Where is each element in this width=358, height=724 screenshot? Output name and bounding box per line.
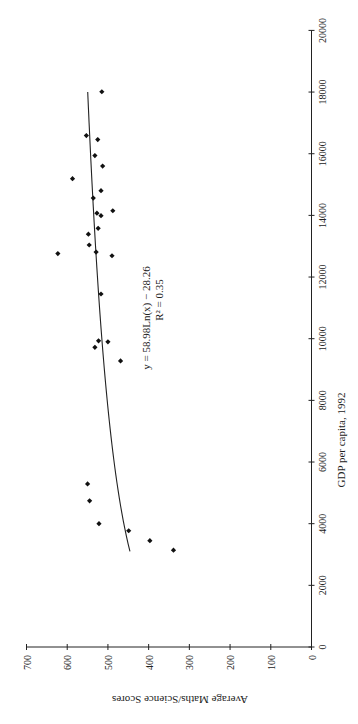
data-point	[87, 242, 92, 247]
data-point	[95, 137, 100, 142]
data-point	[85, 481, 90, 486]
data-point	[98, 213, 103, 218]
data-point	[91, 196, 96, 201]
trendline	[88, 92, 130, 551]
y-tick-label: 100	[266, 655, 277, 670]
y-tick-label: 0	[307, 655, 318, 660]
data-point	[94, 211, 99, 216]
data-point	[94, 249, 99, 254]
x-axis-label: GDP per capita, 1992	[335, 393, 347, 488]
data-point	[70, 176, 75, 181]
score-axis: 0100200300400500600700	[22, 644, 318, 670]
data-point	[92, 153, 97, 158]
data-point	[147, 538, 152, 543]
x-tick-label: 0	[317, 645, 328, 650]
x-tick-label: 16000	[317, 141, 328, 166]
gdp-axis: 0200040006000800010000120001400016000180…	[309, 18, 328, 650]
y-tick-label: 400	[144, 655, 155, 670]
x-tick-label: 8000	[317, 390, 328, 410]
data-point	[126, 528, 131, 533]
x-tick-label: 2000	[317, 575, 328, 595]
data-point	[109, 253, 114, 258]
x-tick-label: 10000	[317, 326, 328, 351]
data-point	[96, 521, 101, 526]
data-point	[86, 232, 91, 237]
x-tick-label: 20000	[317, 18, 328, 43]
x-tick-label: 6000	[317, 452, 328, 472]
data-point	[84, 133, 89, 138]
data-point	[92, 345, 97, 350]
data-point	[105, 339, 110, 344]
data-point	[110, 208, 115, 213]
data-point	[87, 498, 92, 503]
data-point	[96, 226, 101, 231]
data-point	[100, 163, 105, 168]
y-axis-label: Average Maths/Science Scores	[112, 694, 248, 706]
scatter-chart: 0100200300400500600700 02000400060008000…	[0, 0, 358, 724]
data-point	[171, 548, 176, 553]
y-tick-label: 200	[225, 655, 236, 670]
y-tick-label: 500	[103, 655, 114, 670]
data-point	[118, 358, 123, 363]
data-point	[96, 338, 101, 343]
x-tick-label: 4000	[317, 514, 328, 534]
y-tick-label: 300	[184, 655, 195, 670]
y-tick-label: 700	[22, 655, 33, 670]
data-point	[55, 251, 60, 256]
trendline-r2: R² = 0.35	[153, 279, 165, 321]
trendline-equation: y = 58.98Ln(x) − 28.26	[140, 266, 153, 370]
data-point	[99, 89, 104, 94]
data-point	[98, 188, 103, 193]
x-tick-label: 12000	[317, 265, 328, 290]
x-tick-label: 14000	[317, 203, 328, 228]
x-tick-label: 18000	[317, 80, 328, 105]
y-tick-label: 600	[62, 655, 73, 670]
